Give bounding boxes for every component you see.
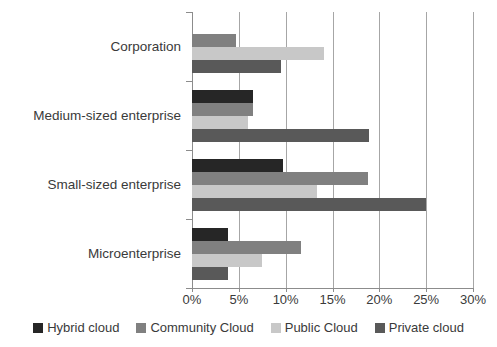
bar-private-cloud xyxy=(192,198,426,211)
x-tick-label: 5% xyxy=(216,292,262,307)
y-tick-mark xyxy=(186,288,192,289)
bar-chart: CorporationMedium-sized enterpriseSmall-… xyxy=(0,0,497,347)
legend-item-hybrid-cloud[interactable]: Hybrid cloud xyxy=(33,320,119,335)
x-tick-label: 25% xyxy=(403,292,449,307)
bar-community-cloud xyxy=(192,241,301,254)
bar-hybrid-cloud xyxy=(192,90,253,103)
y-axis-label-microenterprise: Microenterprise xyxy=(0,246,186,262)
legend-item-public-cloud[interactable]: Public Cloud xyxy=(271,320,358,335)
bar-community-cloud xyxy=(192,172,368,185)
y-tick-mark xyxy=(186,150,192,151)
x-tick-label: 30% xyxy=(450,292,496,307)
legend-item-private-cloud[interactable]: Private cloud xyxy=(375,320,464,335)
chart-legend: Hybrid cloudCommunity CloudPublic CloudP… xyxy=(0,320,497,335)
legend-label: Hybrid cloud xyxy=(47,320,119,335)
y-tick-mark xyxy=(186,81,192,82)
y-axis-label-small-sized-enterprise: Small-sized enterprise xyxy=(0,177,186,193)
gridline xyxy=(426,12,427,288)
bar-public-cloud xyxy=(192,47,324,60)
bar-hybrid-cloud xyxy=(192,228,228,241)
bar-public-cloud xyxy=(192,254,262,267)
bar-community-cloud xyxy=(192,34,236,47)
x-tick-label: 20% xyxy=(356,292,402,307)
legend-swatch-icon xyxy=(271,323,281,333)
legend-swatch-icon xyxy=(136,323,146,333)
y-axis-category-labels: CorporationMedium-sized enterpriseSmall-… xyxy=(0,0,186,347)
bar-private-cloud xyxy=(192,60,281,73)
bar-public-cloud xyxy=(192,185,317,198)
bar-private-cloud xyxy=(192,267,228,280)
y-axis-label-corporation: Corporation xyxy=(0,39,186,55)
gridline xyxy=(379,12,380,288)
plot-area xyxy=(192,12,473,288)
y-tick-mark xyxy=(186,12,192,13)
bar-private-cloud xyxy=(192,129,369,142)
gridline xyxy=(333,12,334,288)
x-tick-label: 10% xyxy=(263,292,309,307)
bar-community-cloud xyxy=(192,103,253,116)
x-tick-label: 0% xyxy=(169,292,215,307)
x-tick-label: 15% xyxy=(310,292,356,307)
legend-label: Public Cloud xyxy=(285,320,358,335)
legend-label: Community Cloud xyxy=(150,320,253,335)
legend-swatch-icon xyxy=(33,323,43,333)
y-tick-mark xyxy=(186,219,192,220)
y-axis-label-medium-sized-enterprise: Medium-sized enterprise xyxy=(0,108,186,124)
legend-swatch-icon xyxy=(375,323,385,333)
bar-hybrid-cloud xyxy=(192,159,283,172)
legend-label: Private cloud xyxy=(389,320,464,335)
legend-item-community-cloud[interactable]: Community Cloud xyxy=(136,320,253,335)
bar-public-cloud xyxy=(192,116,248,129)
gridline xyxy=(473,12,474,288)
